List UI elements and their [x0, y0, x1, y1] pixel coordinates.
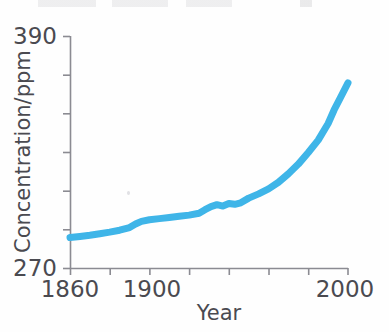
y-axis-title: Concentration/ppm: [11, 50, 35, 253]
line-chart: 390 270 1860 1900 2000 Concentration/ppm…: [0, 0, 389, 332]
y-axis-ticks: [63, 37, 70, 269]
figure-root: 390 270 1860 1900 2000 Concentration/ppm…: [0, 0, 389, 332]
data-series-co2: [70, 83, 348, 238]
y-tick-label-max: 390: [13, 23, 57, 49]
x-tick-label-start: 1860: [41, 276, 100, 302]
co2-line: [70, 83, 348, 238]
x-tick-label-end: 2000: [316, 276, 375, 302]
x-axis-title: Year: [196, 301, 242, 325]
x-tick-label-mid: 1900: [123, 276, 182, 302]
